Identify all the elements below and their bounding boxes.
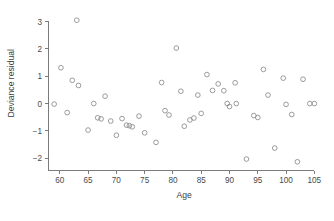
data-point (103, 94, 108, 99)
x-tick-label: 105 (308, 176, 322, 185)
data-point (295, 159, 300, 164)
data-point (312, 101, 317, 106)
data-point (182, 124, 187, 129)
data-point (163, 108, 168, 113)
data-point (234, 101, 239, 106)
data-point (244, 157, 249, 162)
data-point (114, 133, 119, 138)
data-point (210, 88, 215, 93)
x-tick-label: 65 (84, 176, 94, 185)
data-point (284, 102, 289, 107)
data-point (137, 114, 142, 119)
data-point (289, 112, 294, 117)
scatter-plot-figure: −2−10123 6065707580859095100105 Age Devi… (0, 0, 334, 221)
y-tick-label: 2 (37, 45, 42, 54)
y-axis-title: Deviance residual (6, 49, 16, 117)
data-point (167, 113, 172, 118)
data-point (281, 76, 286, 81)
y-tick-label: −2 (33, 154, 43, 163)
x-axis-title: Age (177, 190, 193, 200)
data-point (59, 65, 64, 70)
data-point (154, 140, 159, 145)
data-point (142, 130, 147, 135)
x-tick-label: 60 (55, 176, 65, 185)
x-tick-label: 85 (197, 176, 207, 185)
x-tick-label: 95 (253, 176, 263, 185)
data-point (130, 124, 135, 129)
y-tick-label: −1 (33, 127, 43, 136)
data-point (174, 46, 179, 51)
data-points-layer (52, 18, 317, 164)
y-tick-label: 1 (37, 72, 42, 81)
data-point (266, 93, 271, 98)
data-point (255, 115, 260, 120)
data-point (52, 102, 57, 107)
x-tick-label: 100 (279, 176, 293, 185)
data-point (221, 88, 226, 93)
x-tick-label: 70 (112, 176, 122, 185)
data-point (307, 101, 312, 106)
data-point (199, 111, 204, 116)
data-point (91, 101, 96, 106)
data-point (70, 78, 75, 83)
data-point (192, 116, 197, 121)
x-tick-label: 90 (225, 176, 235, 185)
data-point (127, 123, 132, 128)
data-point (233, 80, 238, 85)
data-point (301, 77, 306, 82)
data-point (272, 146, 277, 151)
x-tick-label: 75 (140, 176, 150, 185)
x-tick-label: 80 (168, 176, 178, 185)
data-point (120, 116, 125, 121)
y-tick-label: 0 (37, 100, 42, 109)
plot-canvas: −2−10123 6065707580859095100105 Age Devi… (0, 0, 334, 221)
data-point (108, 119, 113, 124)
y-tick-label: 3 (37, 18, 42, 27)
data-point (216, 82, 221, 87)
data-point (179, 89, 184, 94)
y-axis: −2−10123 (33, 18, 49, 164)
data-point (261, 67, 266, 72)
x-axis: 6065707580859095100105 (49, 158, 322, 185)
data-point (86, 128, 91, 133)
data-point (205, 72, 210, 77)
data-point (159, 80, 164, 85)
data-point (65, 110, 70, 115)
data-point (195, 93, 200, 98)
data-point (74, 18, 79, 23)
data-point (76, 83, 81, 88)
